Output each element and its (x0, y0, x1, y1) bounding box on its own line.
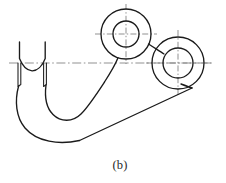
figure-container: (b) (0, 0, 226, 183)
web-to-upper-boss (105, 58, 119, 82)
boss-group (101, 9, 204, 89)
figure-caption: (b) (0, 158, 226, 173)
hook-outer-contour (16, 86, 79, 142)
part-outline-group (16, 42, 192, 142)
figure-caption-text: (b) (98, 158, 127, 173)
notch-right-wall (44, 63, 47, 87)
centerline-group (9, 4, 212, 97)
hook-inner-contour (46, 82, 105, 120)
notch-left-wall (18, 63, 21, 87)
left-notch-arc (20, 42, 46, 71)
lever-long-bottom-edge (80, 88, 193, 141)
technical-drawing-canvas (0, 0, 226, 183)
